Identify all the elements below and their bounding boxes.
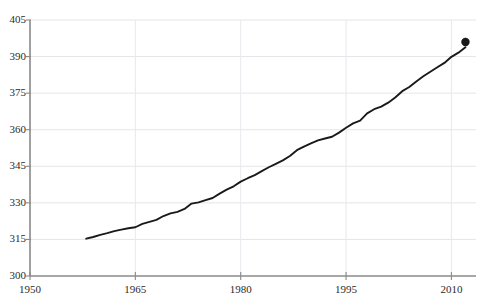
y-axis-tick-label: 315 (0, 232, 26, 244)
end-point-marker (461, 38, 469, 46)
chart-container: 300315330345360375390405 195019651980199… (0, 0, 483, 303)
x-axis-tick-label: 1980 (221, 283, 261, 295)
x-axis-tick-label: 2010 (431, 283, 471, 295)
x-axis-tick-label: 1995 (326, 283, 366, 295)
y-axis-tick-label: 405 (0, 13, 26, 25)
y-axis-tick-label: 345 (0, 159, 26, 171)
y-axis-tick-label: 300 (0, 269, 26, 281)
y-axis-tick-label: 360 (0, 123, 26, 135)
x-axis-tick-label: 1950 (10, 283, 50, 295)
x-axis-tick-label: 1965 (115, 283, 155, 295)
gridlines-group (30, 20, 476, 276)
data-line-co2 (86, 47, 465, 238)
y-axis-tick-label: 330 (0, 196, 26, 208)
line-chart-plot (0, 0, 483, 303)
y-axis-tick-label: 375 (0, 86, 26, 98)
y-axis-tick-label: 390 (0, 50, 26, 62)
